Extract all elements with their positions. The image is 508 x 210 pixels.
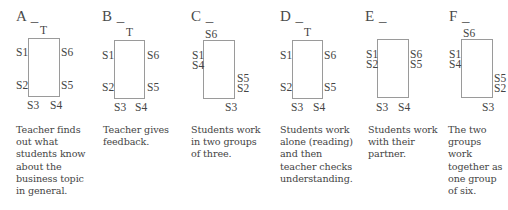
seat-s2: S2 bbox=[494, 83, 506, 94]
panel-letter: F _ bbox=[449, 8, 470, 25]
panel-f: F _ S6 S1 S4 S5 S2 S3 The two groups wor… bbox=[0, 0, 508, 210]
seat-s3: S3 bbox=[482, 102, 494, 113]
seat-s6: S6 bbox=[463, 28, 475, 39]
classroom-layout-box bbox=[461, 39, 493, 98]
seat-s4: S4 bbox=[449, 59, 461, 70]
panel-description: The two groups work together as one grou… bbox=[448, 124, 502, 197]
